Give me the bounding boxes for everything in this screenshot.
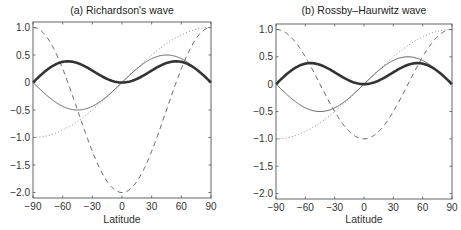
x-tick-label: 90 <box>446 202 458 213</box>
chart-panel-b: (b) Rossby–Haurwitz wave −90−60−30030609… <box>253 4 458 225</box>
y-tick-label: 0.5 <box>16 50 30 61</box>
chart-title: (b) Rossby–Haurwitz wave <box>302 4 427 16</box>
x-axis-label: Latitude <box>103 213 141 225</box>
x-axis-label: Latitude <box>345 213 383 225</box>
plot-area: −90−60−3003060901.00.50−0.5−1.0−1.5−2.0 <box>10 22 217 212</box>
y-tick-label: −1.5 <box>253 161 273 172</box>
y-tick-label: −2.0 <box>253 188 273 199</box>
x-tick-label: −30 <box>84 201 101 212</box>
x-tick-label: 60 <box>417 202 429 213</box>
y-tick-label: −2.0 <box>10 187 30 198</box>
y-tick-label: 0 <box>24 77 30 88</box>
y-tick-label: 1.0 <box>16 22 30 33</box>
series-thick-line <box>33 61 211 82</box>
x-tick-label: −60 <box>297 202 314 213</box>
chart-panel-a: (a) Richardson's wave −90−60−3003060901.… <box>10 4 217 225</box>
x-tick-label: 0 <box>361 202 367 213</box>
chart-title: (a) Richardson's wave <box>70 4 174 16</box>
axes-frame <box>276 24 452 199</box>
y-tick-label: 0.5 <box>259 51 273 62</box>
x-tick-label: 0 <box>119 201 125 212</box>
series-dashed-line <box>33 28 211 193</box>
y-tick-label: −1.0 <box>10 132 30 143</box>
y-tick-label: −0.5 <box>253 106 273 117</box>
y-tick-label: 1.0 <box>259 24 273 35</box>
x-tick-label: 60 <box>176 201 188 212</box>
x-tick-label: −90 <box>268 202 285 213</box>
y-tick-label: −1.0 <box>253 133 273 144</box>
x-tick-label: 90 <box>205 201 217 212</box>
y-tick-label: −1.5 <box>10 160 30 171</box>
x-tick-label: −60 <box>54 201 71 212</box>
x-tick-label: −90 <box>25 201 42 212</box>
figure: (a) Richardson's wave −90−60−3003060901.… <box>0 0 461 230</box>
y-tick-label: 0 <box>267 79 273 90</box>
x-tick-label: 30 <box>146 201 158 212</box>
y-tick-label: −0.5 <box>10 105 30 116</box>
plot-area: −90−60−3003060901.00.50−0.5−1.0−1.5−2.0 <box>253 24 458 213</box>
axes-frame <box>33 22 211 198</box>
x-tick-label: 30 <box>388 202 400 213</box>
series-thick-line <box>276 63 452 84</box>
x-tick-label: −30 <box>326 202 343 213</box>
